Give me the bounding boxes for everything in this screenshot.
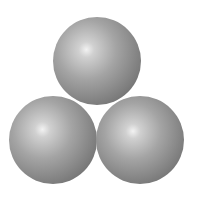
sphere-stack-scene — [0, 0, 200, 203]
sphere-bottom-right — [96, 96, 184, 184]
sphere-bottom-left — [9, 96, 97, 184]
sphere-top — [53, 17, 141, 105]
